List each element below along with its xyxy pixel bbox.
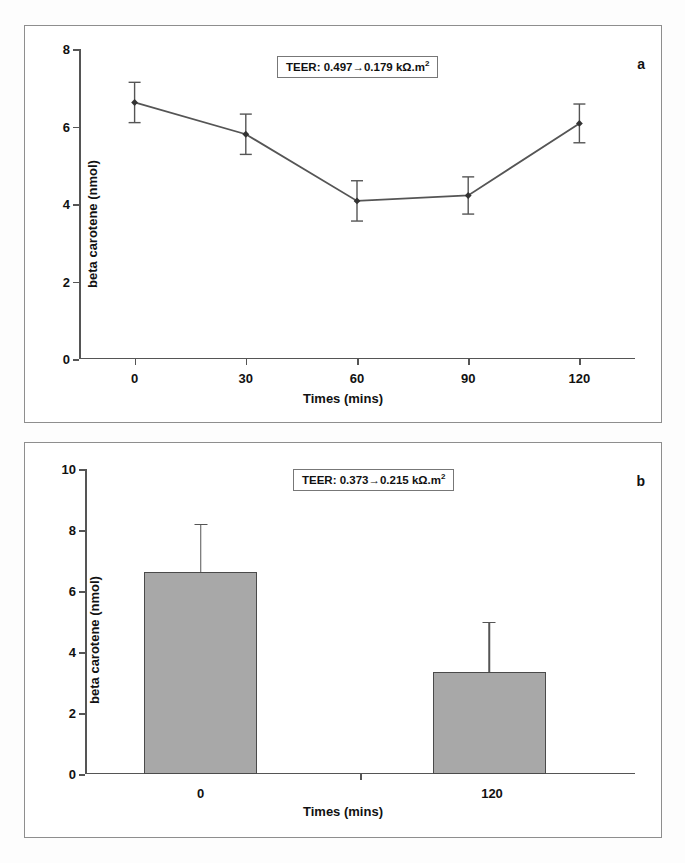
panel-a-ytick-label-4: 4 <box>63 197 70 212</box>
panel-b-ytick-mark-0 <box>79 774 85 776</box>
panel-a-xtick-label-120: 120 <box>569 371 591 386</box>
panel-a-xtick-mark-120 <box>579 359 581 365</box>
panel-a-ytick-mark-0 <box>73 359 79 361</box>
panel-a-xtick-mark-60 <box>357 359 359 365</box>
panel-b-errorbar-cap <box>483 622 496 624</box>
panel-b-ytick-mark-6 <box>79 591 85 593</box>
panel-a-xtick-mark-30 <box>246 359 248 365</box>
panel-b-ytick-mark-10 <box>79 469 85 471</box>
panel-a-xtick-mark-90 <box>468 359 470 365</box>
panel-b-errorbar-stem <box>200 524 202 572</box>
panel-a-ytick-label-0: 0 <box>63 352 70 367</box>
panel-b-x-axis-title: Times (mins) <box>25 804 661 819</box>
panel-b-bar <box>144 572 257 774</box>
panel-a-plot-area: 8 6 4 2 0 0 30 60 90 120 <box>79 49 635 359</box>
panel-a-xtick-label-30: 30 <box>239 371 253 386</box>
panel-b-errorbar-cap <box>194 524 207 526</box>
panel-b-ytick-mark-4 <box>79 652 85 654</box>
panel-b-ytick-label-4: 4 <box>69 645 76 660</box>
panel-b-ytick-label-10: 10 <box>62 462 76 477</box>
panel-b-ytick-label-8: 8 <box>69 523 76 538</box>
panel-b-ytick-mark-8 <box>79 530 85 532</box>
panel-b-y-axis-line <box>85 469 87 774</box>
panel-a-xtick-label-60: 60 <box>350 371 364 386</box>
panel-a-x-axis-title: Times (mins) <box>25 391 661 406</box>
panel-a-data-point <box>131 99 138 106</box>
figure-container: beta carotene (nmol) Times (mins) a TEER… <box>0 0 685 863</box>
panel-a-xtick-label-0: 0 <box>131 371 138 386</box>
panel-a-ytick-label-2: 2 <box>63 274 70 289</box>
panel-a: beta carotene (nmol) Times (mins) a TEER… <box>24 25 662 423</box>
panel-a-xtick-mark-0 <box>135 359 137 365</box>
panel-b-ytick-label-6: 6 <box>69 584 76 599</box>
panel-b-letter: b <box>636 473 645 489</box>
panel-b-ytick-label-2: 2 <box>69 706 76 721</box>
panel-a-line-series <box>79 49 635 359</box>
panel-b: beta carotene (nmol) Times (mins) b TEER… <box>24 442 662 838</box>
panel-b-errorbar-stem <box>489 622 491 672</box>
panel-b-xtick-mark-mid <box>360 774 362 780</box>
panel-a-letter: a <box>637 56 645 72</box>
panel-a-xtick-label-90: 90 <box>461 371 475 386</box>
panel-a-ytick-label-8: 8 <box>63 42 70 57</box>
panel-b-ytick-mark-2 <box>79 713 85 715</box>
panel-a-ytick-label-6: 6 <box>63 119 70 134</box>
panel-b-ytick-label-0: 0 <box>69 767 76 782</box>
panel-b-xtick-label-0: 0 <box>197 786 204 801</box>
panel-b-xtick-label-120: 120 <box>481 786 503 801</box>
panel-b-plot-area: 10 8 6 4 2 0 0 120 <box>85 469 635 774</box>
panel-b-bar <box>433 672 546 774</box>
